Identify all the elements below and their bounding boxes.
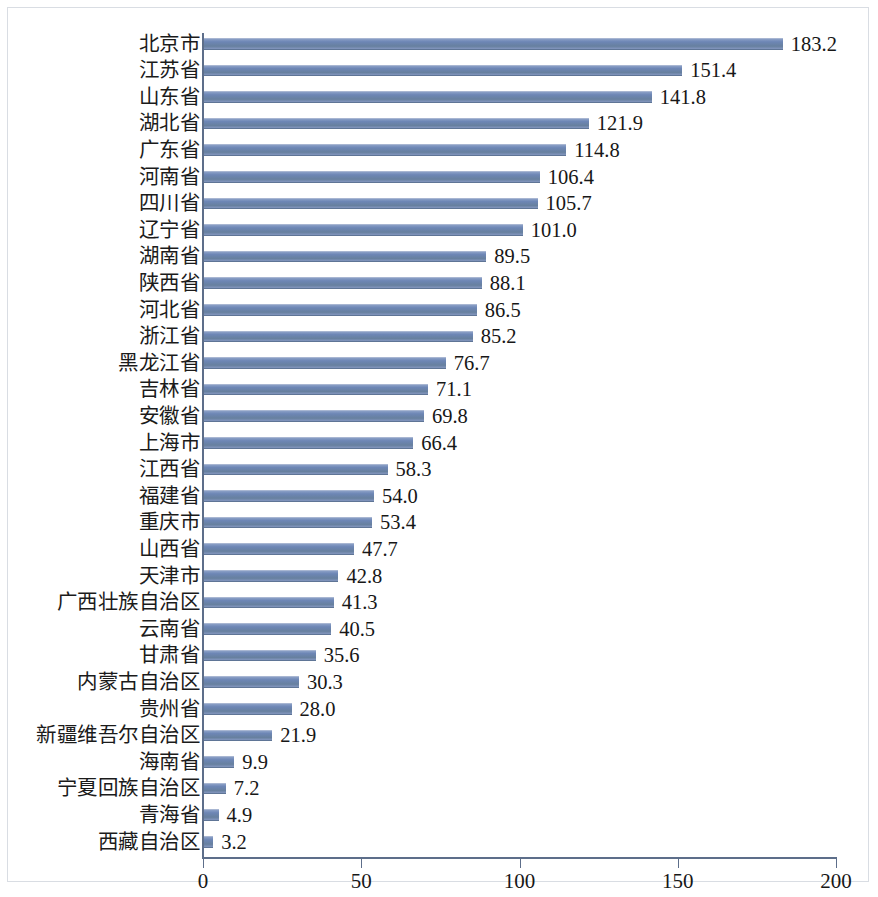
bar-row: 江西省58.3 bbox=[0, 456, 878, 483]
x-axis-tick bbox=[520, 859, 521, 868]
bar-value-label: 41.3 bbox=[342, 589, 378, 616]
bar-value-label: 66.4 bbox=[421, 430, 457, 457]
bar-row: 上海市66.4 bbox=[0, 430, 878, 457]
bar bbox=[203, 703, 292, 715]
bar bbox=[203, 384, 428, 396]
category-label: 陕西省 bbox=[0, 270, 200, 297]
bar-row: 河南省106.4 bbox=[0, 164, 878, 191]
bar bbox=[203, 198, 538, 210]
bar-value-label: 53.4 bbox=[380, 509, 416, 536]
bar-value-label: 42.8 bbox=[346, 563, 382, 590]
category-label: 广西壮族自治区 bbox=[0, 589, 200, 616]
bar bbox=[203, 38, 783, 50]
bar-value-label: 88.1 bbox=[490, 270, 526, 297]
bar bbox=[203, 517, 372, 529]
x-axis-tick-label: 50 bbox=[351, 868, 372, 894]
category-label: 海南省 bbox=[0, 749, 200, 776]
bar-value-label: 40.5 bbox=[339, 616, 375, 643]
bar bbox=[203, 91, 652, 103]
category-label: 宁夏回族自治区 bbox=[0, 775, 200, 802]
bar-row: 黑龙江省76.7 bbox=[0, 350, 878, 377]
bar bbox=[203, 836, 213, 848]
bar bbox=[203, 623, 331, 635]
bar-row: 广东省114.8 bbox=[0, 137, 878, 164]
bar bbox=[203, 756, 234, 768]
bar-row: 西藏自治区3.2 bbox=[0, 829, 878, 856]
bar-row: 江苏省151.4 bbox=[0, 57, 878, 84]
bar bbox=[203, 144, 566, 156]
bar-value-label: 54.0 bbox=[382, 483, 418, 510]
bar-row: 福建省54.0 bbox=[0, 483, 878, 510]
bar-value-label: 151.4 bbox=[690, 57, 736, 84]
category-label: 新疆维吾尔自治区 bbox=[0, 722, 200, 749]
bar-row: 湖北省121.9 bbox=[0, 110, 878, 137]
bar-value-label: 183.2 bbox=[791, 31, 837, 58]
bar-value-label: 141.8 bbox=[660, 84, 706, 111]
bar-value-label: 89.5 bbox=[494, 243, 530, 270]
bar bbox=[203, 650, 316, 662]
y-axis-line bbox=[202, 33, 204, 859]
bar-chart-figure: 北京市183.2江苏省151.4山东省141.8湖北省121.9广东省114.8… bbox=[0, 0, 878, 897]
category-label: 河南省 bbox=[0, 164, 200, 191]
bar-value-label: 9.9 bbox=[242, 749, 268, 776]
bar-row: 安徽省69.8 bbox=[0, 403, 878, 430]
bar-row: 辽宁省101.0 bbox=[0, 217, 878, 244]
bar bbox=[203, 490, 374, 502]
x-axis-tick-label: 100 bbox=[504, 868, 536, 894]
category-label: 湖南省 bbox=[0, 243, 200, 270]
bar-value-label: 114.8 bbox=[574, 137, 619, 164]
bar-value-label: 58.3 bbox=[396, 456, 432, 483]
bar-row: 广西壮族自治区41.3 bbox=[0, 589, 878, 616]
category-label: 江苏省 bbox=[0, 57, 200, 84]
x-axis-tick bbox=[203, 859, 204, 868]
category-label: 广东省 bbox=[0, 137, 200, 164]
category-label: 黑龙江省 bbox=[0, 350, 200, 377]
x-axis-tick-label: 200 bbox=[820, 868, 852, 894]
category-label: 安徽省 bbox=[0, 403, 200, 430]
bar bbox=[203, 251, 486, 263]
bar bbox=[203, 331, 473, 343]
bar-row: 四川省105.7 bbox=[0, 190, 878, 217]
bar bbox=[203, 676, 299, 688]
plot-area: 北京市183.2江苏省151.4山东省141.8湖北省121.9广东省114.8… bbox=[0, 0, 878, 897]
bar-value-label: 76.7 bbox=[454, 350, 490, 377]
bar bbox=[203, 543, 354, 555]
bar-row: 海南省9.9 bbox=[0, 749, 878, 776]
category-label: 重庆市 bbox=[0, 509, 200, 536]
bar bbox=[203, 410, 424, 422]
bar bbox=[203, 118, 589, 130]
bar-row: 浙江省85.2 bbox=[0, 323, 878, 350]
category-label: 江西省 bbox=[0, 456, 200, 483]
bar-value-label: 85.2 bbox=[481, 323, 517, 350]
category-label: 青海省 bbox=[0, 802, 200, 829]
bar-value-label: 69.8 bbox=[432, 403, 468, 430]
bar-value-label: 101.0 bbox=[531, 217, 577, 244]
bar-row: 陕西省88.1 bbox=[0, 270, 878, 297]
x-axis-tick-label: 0 bbox=[198, 868, 209, 894]
bar-value-label: 28.0 bbox=[300, 696, 336, 723]
category-label: 河北省 bbox=[0, 297, 200, 324]
bar bbox=[203, 783, 226, 795]
bar bbox=[203, 171, 540, 183]
bar-row: 湖南省89.5 bbox=[0, 243, 878, 270]
category-label: 四川省 bbox=[0, 190, 200, 217]
bar-row: 新疆维吾尔自治区21.9 bbox=[0, 722, 878, 749]
category-label: 甘肃省 bbox=[0, 642, 200, 669]
bar-row: 青海省4.9 bbox=[0, 802, 878, 829]
category-label: 福建省 bbox=[0, 483, 200, 510]
category-label: 内蒙古自治区 bbox=[0, 669, 200, 696]
category-label: 吉林省 bbox=[0, 376, 200, 403]
bar-value-label: 4.9 bbox=[227, 802, 253, 829]
bar bbox=[203, 224, 523, 236]
bar-value-label: 47.7 bbox=[362, 536, 398, 563]
bar-value-label: 21.9 bbox=[280, 722, 316, 749]
bar-value-label: 86.5 bbox=[485, 297, 521, 324]
bar bbox=[203, 65, 682, 77]
bar bbox=[203, 277, 482, 289]
bar-row: 天津市42.8 bbox=[0, 563, 878, 590]
bar bbox=[203, 464, 388, 476]
bar-row: 山东省141.8 bbox=[0, 84, 878, 111]
bar-value-label: 121.9 bbox=[597, 110, 643, 137]
category-label: 北京市 bbox=[0, 31, 200, 58]
category-label: 山东省 bbox=[0, 84, 200, 111]
